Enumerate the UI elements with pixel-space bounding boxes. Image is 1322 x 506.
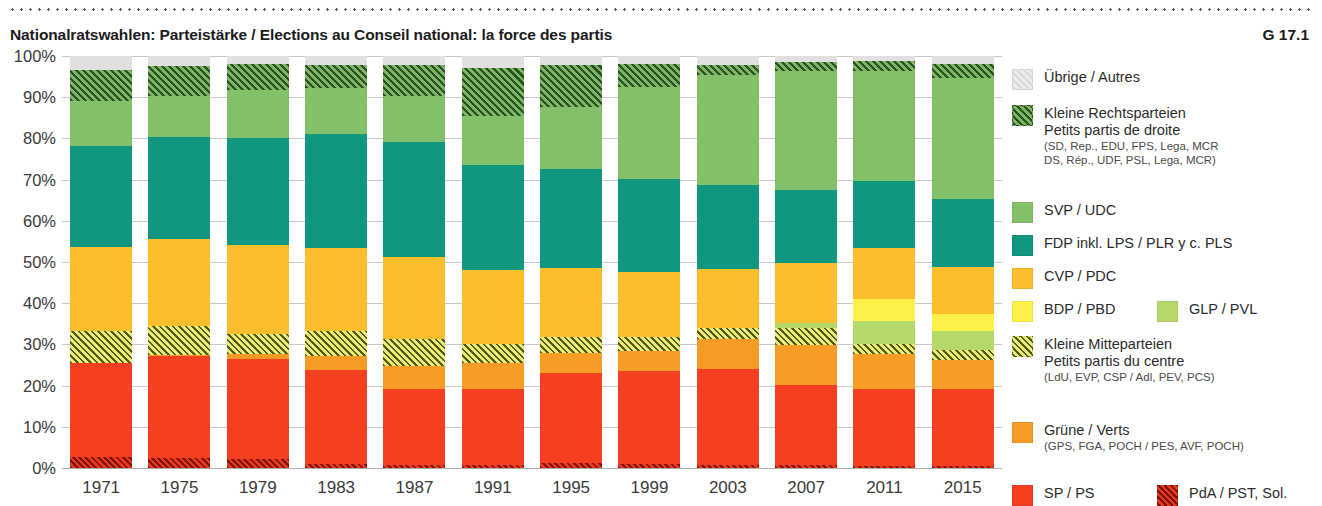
bar-segment-gruene[interactable] — [853, 354, 915, 389]
bar-segment-gruene[interactable] — [462, 363, 524, 388]
bar-segment-kl_rechts[interactable] — [697, 65, 759, 75]
bar-segment-fdp[interactable] — [227, 138, 289, 246]
bar-segment-glp[interactable] — [932, 331, 994, 350]
bar-segment-cvp[interactable] — [227, 245, 289, 334]
stacked-bar[interactable] — [462, 56, 524, 468]
legend-item-svp[interactable]: SVP / UDC — [1012, 202, 1116, 223]
stacked-bar[interactable] — [618, 56, 680, 468]
bar-segment-sp[interactable] — [148, 356, 210, 459]
bar-segment-kl_mitte[interactable] — [540, 337, 602, 353]
stacked-bar[interactable] — [70, 56, 132, 468]
stacked-bar[interactable] — [383, 56, 445, 468]
bar-segment-pda[interactable] — [775, 465, 837, 468]
legend-item-kl_rechts[interactable]: Kleine RechtsparteienPetits partis de dr… — [1012, 105, 1218, 167]
bar-column[interactable] — [532, 56, 610, 468]
bar-segment-svp[interactable] — [932, 78, 994, 199]
stacked-bar[interactable] — [305, 56, 367, 468]
bar-segment-uebrige[interactable] — [540, 56, 602, 65]
bar-segment-kl_rechts[interactable] — [148, 66, 210, 96]
stacked-bar[interactable] — [775, 56, 837, 468]
bar-segment-pda[interactable] — [853, 466, 915, 468]
bar-column[interactable] — [767, 56, 845, 468]
bar-segment-uebrige[interactable] — [618, 56, 680, 64]
bar-segment-kl_rechts[interactable] — [305, 65, 367, 88]
bar-segment-kl_mitte[interactable] — [148, 326, 210, 354]
bar-segment-gruene[interactable] — [383, 366, 445, 389]
bar-segment-bdp[interactable] — [853, 299, 915, 321]
bar-segment-kl_rechts[interactable] — [70, 70, 132, 101]
bar-segment-uebrige[interactable] — [227, 56, 289, 64]
bar-segment-kl_mitte[interactable] — [462, 344, 524, 363]
stacked-bar[interactable] — [540, 56, 602, 468]
bar-segment-sp[interactable] — [932, 389, 994, 466]
bar-segment-gruene[interactable] — [305, 356, 367, 370]
bar-segment-gruene[interactable] — [932, 360, 994, 389]
bar-segment-uebrige[interactable] — [305, 56, 367, 65]
bar-segment-sp[interactable] — [540, 373, 602, 463]
bar-segment-uebrige[interactable] — [697, 56, 759, 65]
bar-segment-svp[interactable] — [383, 96, 445, 141]
bar-segment-fdp[interactable] — [540, 169, 602, 268]
bar-segment-fdp[interactable] — [305, 134, 367, 248]
bar-segment-fdp[interactable] — [383, 142, 445, 257]
stacked-bar[interactable] — [853, 56, 915, 468]
bar-segment-kl_rechts[interactable] — [540, 65, 602, 107]
bar-segment-kl_mitte[interactable] — [305, 331, 367, 356]
stacked-bar[interactable] — [697, 56, 759, 468]
bar-column[interactable] — [845, 56, 923, 468]
bar-segment-sp[interactable] — [70, 363, 132, 457]
bar-segment-uebrige[interactable] — [462, 56, 524, 68]
bar-segment-sp[interactable] — [618, 371, 680, 464]
legend-item-glp[interactable]: GLP / PVL — [1157, 301, 1257, 322]
bar-column[interactable] — [924, 56, 1002, 468]
bar-segment-svp[interactable] — [227, 90, 289, 138]
bar-segment-cvp[interactable] — [462, 270, 524, 344]
bar-segment-cvp[interactable] — [148, 239, 210, 326]
stacked-bar[interactable] — [227, 56, 289, 468]
bar-segment-svp[interactable] — [697, 75, 759, 185]
bar-segment-kl_mitte[interactable] — [853, 344, 915, 355]
bar-segment-uebrige[interactable] — [148, 56, 210, 66]
bar-segment-svp[interactable] — [70, 101, 132, 147]
bar-segment-sp[interactable] — [383, 389, 445, 465]
bar-segment-pda[interactable] — [305, 464, 367, 468]
bar-segment-fdp[interactable] — [853, 181, 915, 249]
bar-segment-cvp[interactable] — [775, 263, 837, 323]
bar-segment-glp[interactable] — [853, 321, 915, 343]
bar-segment-kl_mitte[interactable] — [697, 328, 759, 339]
bar-segment-kl_rechts[interactable] — [227, 64, 289, 90]
bar-segment-fdp[interactable] — [618, 179, 680, 272]
bar-segment-kl_rechts[interactable] — [932, 64, 994, 78]
bar-column[interactable] — [219, 56, 297, 468]
stacked-bar[interactable] — [148, 56, 210, 468]
bar-segment-gruene[interactable] — [775, 345, 837, 385]
bar-segment-svp[interactable] — [853, 71, 915, 181]
bar-column[interactable] — [140, 56, 218, 468]
legend-item-kl_mitte[interactable]: Kleine MitteparteienPetits partis du cen… — [1012, 336, 1214, 384]
bar-segment-uebrige[interactable] — [383, 56, 445, 65]
bar-segment-sp[interactable] — [775, 385, 837, 465]
bar-segment-kl_mitte[interactable] — [70, 331, 132, 362]
bar-column[interactable] — [689, 56, 767, 468]
bar-segment-kl_rechts[interactable] — [853, 61, 915, 70]
bar-segment-uebrige[interactable] — [932, 56, 994, 64]
bar-segment-kl_rechts[interactable] — [383, 65, 445, 97]
legend-item-pda[interactable]: PdA / PST, Sol. — [1157, 485, 1287, 506]
bar-segment-svp[interactable] — [618, 87, 680, 180]
bar-column[interactable] — [610, 56, 688, 468]
legend-item-cvp[interactable]: CVP / PDC — [1012, 268, 1116, 289]
bar-segment-fdp[interactable] — [932, 199, 994, 267]
legend-item-bdp[interactable]: BDP / PBD — [1012, 301, 1115, 322]
bar-segment-sp[interactable] — [305, 370, 367, 464]
bar-segment-cvp[interactable] — [853, 248, 915, 299]
legend-item-fdp[interactable]: FDP inkl. LPS / PLR y c. PLS — [1012, 235, 1232, 256]
bar-segment-gruene[interactable] — [540, 353, 602, 374]
bar-segment-fdp[interactable] — [462, 165, 524, 270]
bar-segment-pda[interactable] — [932, 466, 994, 468]
bar-segment-fdp[interactable] — [70, 146, 132, 247]
bar-segment-kl_mitte[interactable] — [618, 337, 680, 350]
bar-segment-svp[interactable] — [540, 107, 602, 168]
bar-segment-pda[interactable] — [383, 465, 445, 468]
legend-item-gruene[interactable]: Grüne / Verts(GPS, FGA, POCH / PES, AVF,… — [1012, 422, 1244, 453]
bar-segment-kl_rechts[interactable] — [462, 68, 524, 115]
